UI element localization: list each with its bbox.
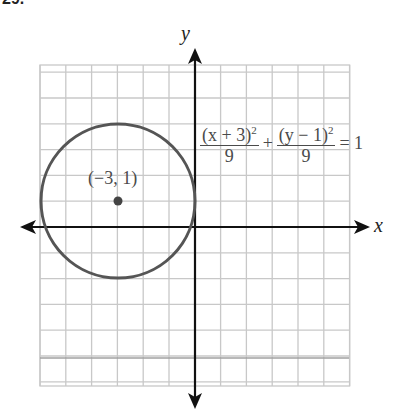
term1-exponent: 2	[251, 124, 257, 136]
term2-exponent: 2	[328, 124, 334, 136]
fraction-1: (x + 3)2 9	[200, 120, 259, 166]
x-axis-label: x	[374, 214, 383, 237]
equation: (x + 3)2 9 + (y − 1)2 9 = 1	[200, 120, 367, 166]
fraction-2: (y − 1)2 9	[277, 120, 336, 166]
term2-denominator: 9	[277, 145, 336, 166]
y-axis-label: y	[181, 22, 190, 45]
center-label: (−3, 1)	[88, 168, 137, 189]
term1-denominator: 9	[200, 145, 259, 166]
center-point	[114, 197, 123, 206]
plus-sign: +	[259, 133, 277, 153]
graph	[0, 0, 399, 409]
equation-rhs: = 1	[335, 133, 367, 153]
term2-numerator: (y − 1)	[279, 125, 328, 145]
term1-numerator: (x + 3)	[202, 125, 251, 145]
